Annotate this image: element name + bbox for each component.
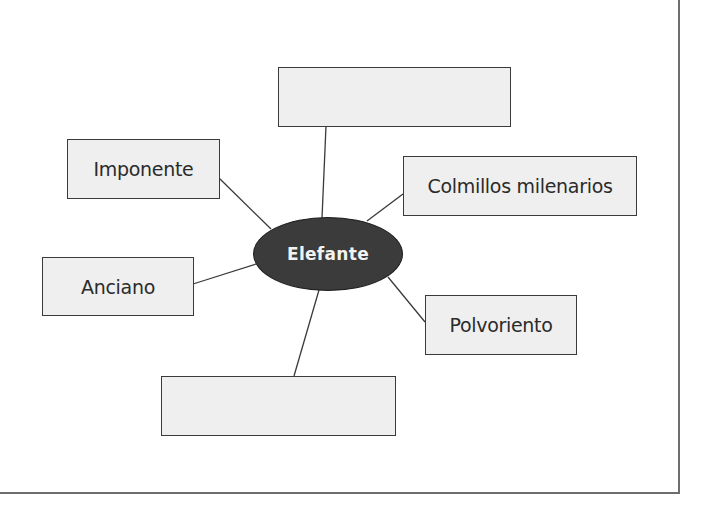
connector-colmillos — [367, 194, 403, 221]
concept-box-imponente: Imponente — [67, 139, 220, 199]
center-concept-ellipse: Elefante — [253, 217, 403, 291]
concept-box-top-empty — [278, 67, 511, 127]
concept-box-bottom-empty — [161, 376, 396, 436]
concept-label: Anciano — [81, 276, 155, 298]
concept-box-colmillos-milenarios: Colmillos milenarios — [403, 156, 637, 216]
concept-label: Imponente — [93, 158, 193, 180]
connector-imponente — [219, 178, 271, 229]
concept-label: Polvoriento — [449, 314, 552, 336]
connector-bottom — [294, 290, 319, 376]
connector-anciano — [193, 264, 256, 284]
concept-box-anciano: Anciano — [42, 257, 194, 316]
center-concept-label: Elefante — [287, 244, 369, 264]
connector-top — [322, 126, 326, 218]
connector-polvoriento — [388, 277, 425, 322]
concept-label: Colmillos milenarios — [427, 175, 612, 197]
concept-box-polvoriento: Polvoriento — [425, 295, 577, 355]
